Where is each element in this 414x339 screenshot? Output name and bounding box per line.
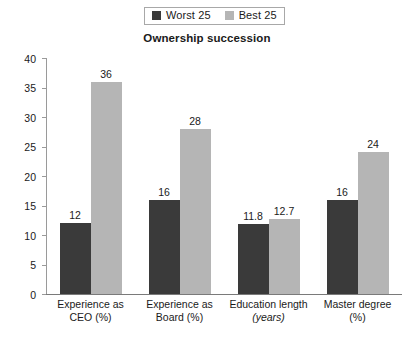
bar-value-label: 12 [69, 209, 81, 221]
bar-best-25: 36 [91, 82, 122, 294]
bar-worst-25: 16 [149, 200, 180, 294]
bar-worst-25: 12 [60, 223, 91, 294]
bar-best-25: 12.7 [269, 219, 300, 294]
y-axis-tick-label: 5 [30, 259, 36, 271]
y-axis-tick-label: 35 [24, 82, 36, 94]
y-axis-tick: 30 [42, 117, 46, 118]
chart-title: Ownership succession [0, 32, 414, 44]
legend-swatch-icon-best-25 [225, 11, 234, 20]
legend-label-best-25: Best 25 [239, 10, 277, 21]
bar-value-label: 16 [158, 186, 170, 198]
legend-entry-worst-25: Worst 25 [152, 10, 211, 21]
bar-best-25: 24 [358, 152, 389, 294]
bar-worst-25: 16 [327, 200, 358, 294]
y-axis-tick-label: 25 [24, 141, 36, 153]
bar-value-label: 11.8 [243, 210, 263, 222]
x-axis-category-label: Experience asBoard (%) [135, 298, 224, 323]
y-axis-tick: 15 [42, 206, 46, 207]
x-axis-line [46, 294, 402, 295]
bar-value-label: 28 [189, 115, 201, 127]
chart-legend: Worst 25 Best 25 [144, 7, 285, 25]
y-axis-tick: 40 [42, 58, 46, 59]
x-axis-category-label: Education length(years) [224, 298, 313, 323]
y-axis-tick: 20 [42, 176, 46, 177]
y-axis-tick-label: 10 [24, 230, 36, 242]
y-axis-tick-label: 20 [24, 171, 36, 183]
plot-area: 0510152025303540 1236162811.812.71624 Ex… [46, 58, 402, 294]
y-axis-line [46, 58, 47, 294]
y-axis-tick: 25 [42, 147, 46, 148]
y-axis-tick: 0 [42, 294, 46, 295]
bar-value-label: 24 [367, 138, 379, 150]
bar-value-label: 16 [336, 186, 348, 198]
y-axis-tick: 5 [42, 265, 46, 266]
legend-swatch-icon-worst-25 [152, 11, 161, 20]
y-axis-tick-label: 15 [24, 200, 36, 212]
bar-value-label: 36 [100, 68, 112, 80]
y-axis-tick-label: 30 [24, 112, 36, 124]
x-axis-category-label: Master degree(%) [313, 298, 402, 323]
bar-value-label: 12.7 [274, 205, 294, 217]
y-axis-tick-label: 40 [24, 53, 36, 65]
x-axis-category-label: Experience asCEO (%) [46, 298, 135, 323]
y-axis-tick: 10 [42, 235, 46, 236]
y-axis-tick-label: 0 [30, 289, 36, 301]
legend-entry-best-25: Best 25 [225, 10, 277, 21]
legend-label-worst-25: Worst 25 [166, 10, 211, 21]
bar-best-25: 28 [180, 129, 211, 294]
bar-chart: Worst 25 Best 25 Ownership succession 05… [0, 0, 414, 339]
y-axis-tick: 35 [42, 88, 46, 89]
bar-worst-25: 11.8 [238, 224, 269, 294]
